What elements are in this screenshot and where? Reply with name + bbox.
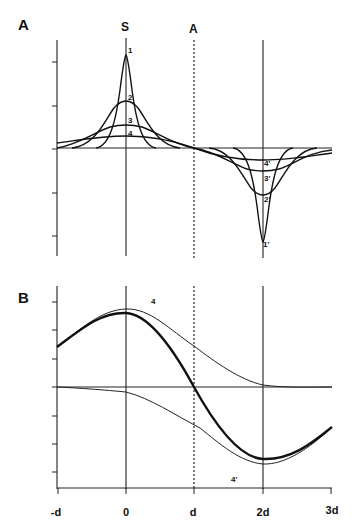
label-4-prime-b: 4' [231,475,237,484]
label-3: 3 [128,116,133,125]
x-tick-label: 3d [326,504,339,516]
figure-canvas: A S A [0,0,356,530]
panel-a-y-ticks [52,62,57,236]
label-1: 1 [128,46,133,55]
label-3-prime: 3' [264,174,270,183]
x-tick-label: -d [51,506,61,518]
label-4-prime: 4' [264,159,270,168]
label-2: 2 [128,93,133,102]
x-tick-labels: -d 0 d 2d 3d [51,504,339,518]
x-tick-label: 2d [257,506,270,518]
panel-b-x-ticks [58,488,331,494]
x-tick-label: 0 [123,506,129,518]
panel-a: A S A [18,16,332,258]
panel-a-label: A [18,16,29,33]
label-4: 4 [128,129,133,138]
panel-b: B [18,286,338,518]
x-tick-label: d [190,506,197,518]
label-1-prime: 1' [263,240,269,249]
axis-line-label: A [189,22,198,36]
label-4-b: 4 [151,297,156,306]
source-line-label: S [121,20,129,34]
panel-b-label: B [18,289,29,306]
label-2-prime: 2' [264,195,270,204]
panel-b-y-ticks [52,302,57,472]
